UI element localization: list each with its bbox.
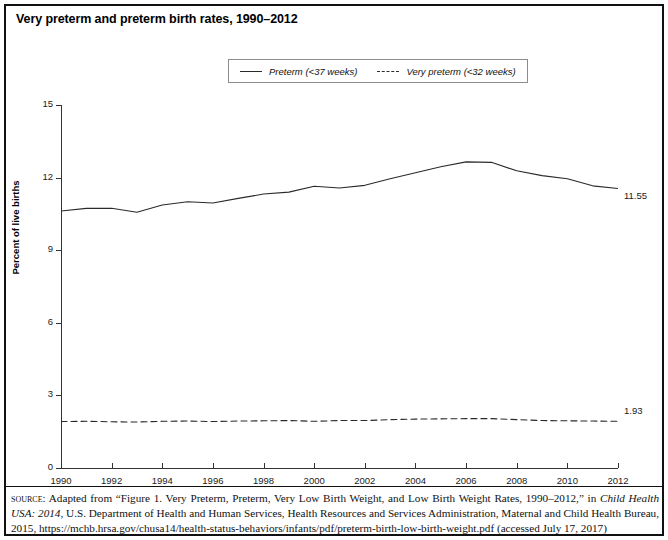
figure-container: Very preterm and preterm birth rates, 19… [0, 0, 668, 540]
plot-area [61, 105, 618, 468]
chart-legend: Preterm (<37 weeks) Very preterm (<32 we… [228, 59, 528, 83]
x-tick-label: 2002 [345, 475, 385, 486]
chart-title: Very preterm and preterm birth rates, 19… [16, 12, 636, 26]
x-tick-label: 1992 [92, 475, 132, 486]
y-tick-label: 9 [27, 243, 53, 254]
y-tick-mark [56, 468, 61, 469]
source-text-2: , U.S. Department of Health and Human Se… [11, 507, 659, 534]
x-tick-label: 2010 [547, 475, 587, 486]
source-note: source: Adapted from “Figure 1. Very Pre… [11, 491, 659, 536]
y-tick-label: 15 [27, 98, 53, 109]
source-divider [6, 486, 662, 487]
y-tick-label: 12 [27, 171, 53, 182]
x-tick-label: 1990 [41, 475, 81, 486]
legend-label-very-preterm: Very preterm (<32 weeks) [406, 66, 515, 77]
y-tick-label: 3 [27, 388, 53, 399]
x-tick-label: 2000 [294, 475, 334, 486]
source-label: source [11, 492, 43, 505]
x-tick-label: 2008 [497, 475, 537, 486]
line-very-preterm [61, 419, 618, 422]
x-tick-mark [618, 463, 619, 468]
x-tick-label: 2006 [446, 475, 486, 486]
source-text-1: : Adapted from “Figure 1. Very Preterm, … [43, 492, 600, 504]
legend-label-preterm: Preterm (<37 weeks) [269, 66, 357, 77]
x-tick-label: 1998 [244, 475, 284, 486]
x-tick-label: 1994 [142, 475, 182, 486]
legend-item-preterm: Preterm (<37 weeks) [240, 66, 357, 77]
y-tick-label: 6 [27, 316, 53, 327]
solid-line-swatch [240, 71, 262, 72]
y-axis-title: Percent of live births [10, 158, 21, 298]
x-tick-label: 2012 [598, 475, 638, 486]
x-axis-line [61, 468, 618, 469]
dashed-line-swatch [377, 71, 399, 72]
line-preterm [61, 162, 618, 212]
series-lines [61, 105, 618, 468]
y-tick-label: 0 [27, 461, 53, 472]
legend-item-very-preterm: Very preterm (<32 weeks) [377, 66, 515, 77]
x-tick-label: 2004 [395, 475, 435, 486]
end-label-very-preterm: 1.93 [624, 405, 643, 416]
end-label-preterm: 11.55 [624, 190, 647, 201]
x-tick-label: 1996 [193, 475, 233, 486]
